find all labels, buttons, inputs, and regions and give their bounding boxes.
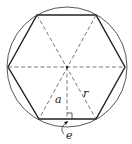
edge-label: e: [66, 129, 73, 142]
apothem-label: a: [55, 93, 62, 106]
hexagon-diagram: a r e: [0, 0, 132, 144]
center-point: [66, 66, 68, 68]
right-angle-mark: [67, 113, 72, 119]
radius-label: r: [83, 87, 89, 100]
